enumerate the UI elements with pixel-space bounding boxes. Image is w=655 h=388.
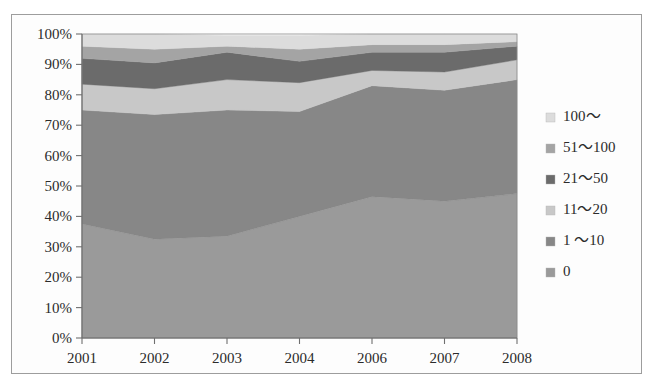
chart-legend: 100～51～10021～5011～201 ～100: [546, 108, 616, 279]
stacked-area-chart: 0%10%20%30%40%50%60%70%80%90%100% 200120…: [0, 0, 655, 388]
legend-swatch: [546, 268, 555, 277]
x-axis-tick-label: 2008: [502, 350, 532, 366]
legend-label: 51～100: [563, 139, 616, 155]
legend-swatch: [546, 113, 555, 122]
legend-swatch: [546, 206, 555, 215]
y-axis-tick-label: 60%: [45, 148, 73, 164]
y-axis-tick-label: 0%: [52, 330, 72, 346]
y-axis-tick-label: 100%: [37, 26, 72, 42]
legend-swatch: [546, 144, 555, 153]
legend-label: 11～20: [563, 201, 607, 217]
legend-swatch: [546, 237, 555, 246]
y-axis-tick-label: 20%: [45, 269, 73, 285]
x-axis-tick-label: 2003: [212, 350, 242, 366]
x-axis-tick-label: 2002: [140, 350, 170, 366]
y-axis-tick-label: 10%: [45, 300, 73, 316]
chart-areas-group: [82, 34, 517, 338]
legend-label: 21～50: [563, 170, 608, 186]
legend-label: 0: [563, 263, 571, 279]
x-axis-tick-label: 2001: [67, 350, 97, 366]
legend-label: 100～: [563, 108, 601, 124]
x-axis-tick-label: 2004: [285, 350, 316, 366]
legend-label: 1 ～10: [563, 232, 604, 248]
legend-swatch: [546, 175, 555, 184]
y-axis-tick-label: 50%: [45, 178, 73, 194]
y-axis-tick-label: 30%: [45, 239, 73, 255]
y-axis-tick-label: 90%: [45, 56, 73, 72]
y-axis-tick-label: 70%: [45, 117, 73, 133]
x-axis-tick-label: 2006: [357, 350, 388, 366]
chart-screenshot: 0%10%20%30%40%50%60%70%80%90%100% 200120…: [0, 0, 655, 388]
y-axis-tick-label: 40%: [45, 208, 73, 224]
x-axis-tick-label: 2007: [430, 350, 461, 366]
y-axis-tick-labels: 0%10%20%30%40%50%60%70%80%90%100%: [37, 26, 72, 346]
x-axis-tick-labels: 2001200220032004200620072008: [67, 350, 532, 366]
y-axis-tick-label: 80%: [45, 87, 73, 103]
